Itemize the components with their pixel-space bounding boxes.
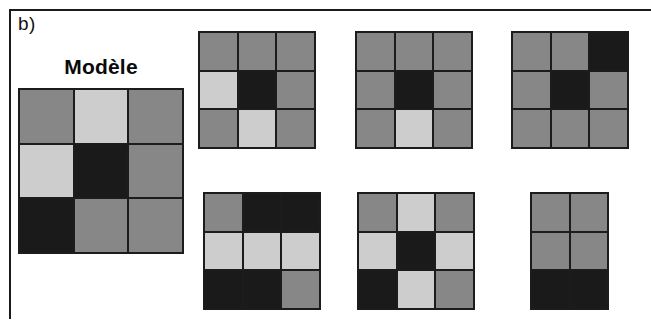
grid-cell bbox=[571, 271, 608, 308]
grid-cell bbox=[244, 233, 281, 270]
grid-cell bbox=[436, 233, 473, 270]
grid-cell bbox=[532, 271, 569, 308]
grid-cell bbox=[552, 72, 589, 109]
grid-cell bbox=[282, 233, 319, 270]
figure-frame-left-border bbox=[9, 9, 11, 319]
grid-cell bbox=[571, 194, 608, 231]
grid-cell bbox=[396, 110, 433, 147]
grid-cell bbox=[552, 33, 589, 70]
grid-cell bbox=[359, 271, 396, 308]
grid-cell bbox=[277, 110, 314, 147]
grid-cell bbox=[532, 233, 569, 270]
grid-cell bbox=[513, 33, 550, 70]
grid-cell bbox=[434, 72, 471, 109]
grid-cell bbox=[75, 199, 128, 252]
panel-label: b) bbox=[18, 14, 36, 33]
grid-cell bbox=[398, 233, 435, 270]
grid-cell bbox=[200, 33, 237, 70]
grid-cell bbox=[513, 72, 550, 109]
grid-cell bbox=[590, 110, 627, 147]
grid-cell bbox=[239, 72, 276, 109]
grid-cell bbox=[75, 90, 128, 143]
grid-cell bbox=[434, 33, 471, 70]
figure-panel-b: b) Modèle bbox=[0, 0, 651, 327]
grid-cell bbox=[129, 145, 182, 198]
grid-cell bbox=[282, 194, 319, 231]
grid-cell bbox=[357, 110, 394, 147]
grid-cell bbox=[590, 33, 627, 70]
grid-cell bbox=[244, 194, 281, 231]
model-grid bbox=[18, 88, 184, 254]
grid-cell bbox=[75, 145, 128, 198]
grid-cell bbox=[396, 33, 433, 70]
grid-cell bbox=[239, 110, 276, 147]
model-title: Modèle bbox=[14, 55, 188, 78]
grid-cell bbox=[513, 110, 550, 147]
grid-cell bbox=[200, 110, 237, 147]
grid-cell bbox=[436, 194, 473, 231]
option-grid-5[interactable] bbox=[357, 192, 475, 310]
grid-cell bbox=[357, 33, 394, 70]
grid-cell bbox=[129, 199, 182, 252]
grid-cell bbox=[200, 72, 237, 109]
grid-cell bbox=[359, 194, 396, 231]
grid-cell bbox=[205, 194, 242, 231]
grid-cell bbox=[205, 271, 242, 308]
figure-frame-top-border bbox=[9, 9, 651, 11]
grid-cell bbox=[552, 110, 589, 147]
grid-cell bbox=[396, 72, 433, 109]
grid-cell bbox=[277, 33, 314, 70]
grid-cell bbox=[590, 72, 627, 109]
option-grid-3[interactable] bbox=[511, 31, 629, 149]
grid-cell bbox=[282, 271, 319, 308]
option-grid-1[interactable] bbox=[198, 31, 316, 149]
grid-cell bbox=[205, 233, 242, 270]
grid-cell bbox=[129, 90, 182, 143]
grid-cell bbox=[20, 145, 73, 198]
option-grid-2[interactable] bbox=[355, 31, 473, 149]
grid-cell bbox=[532, 194, 569, 231]
grid-cell bbox=[244, 271, 281, 308]
grid-cell bbox=[359, 233, 396, 270]
grid-cell bbox=[571, 233, 608, 270]
grid-cell bbox=[239, 33, 276, 70]
grid-cell bbox=[436, 271, 473, 308]
grid-cell bbox=[434, 110, 471, 147]
option-grid-6[interactable] bbox=[530, 192, 609, 310]
grid-cell bbox=[277, 72, 314, 109]
grid-cell bbox=[20, 199, 73, 252]
grid-cell bbox=[357, 72, 394, 109]
grid-cell bbox=[398, 271, 435, 308]
option-grid-4[interactable] bbox=[203, 192, 321, 310]
grid-cell bbox=[20, 90, 73, 143]
grid-cell bbox=[398, 194, 435, 231]
